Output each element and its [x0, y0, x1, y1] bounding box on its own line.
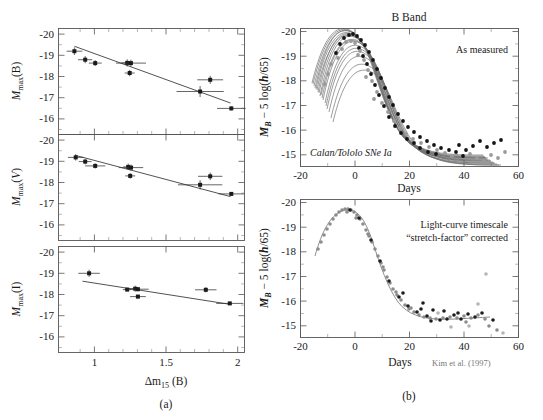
xtick-label: 20 — [404, 340, 416, 352]
ytick-label: -20 — [281, 25, 296, 37]
panel-a-caption: (a) — [160, 398, 173, 411]
ytick-label: -15 — [281, 319, 296, 331]
panel-b-caption: (b) — [402, 390, 416, 403]
ytick-label: -17 — [281, 270, 296, 282]
panel-b-bottom-annotation-line1: Light-curve timescale — [421, 219, 509, 230]
figure-background — [0, 0, 543, 420]
xtick-label: 0 — [352, 169, 358, 181]
ytick-label: -20 — [39, 134, 54, 146]
ytick-label: -19 — [39, 267, 54, 279]
figure-container: -20 -19 -18 -17 -16 Mmax(B) — [0, 0, 543, 420]
panel-b-dataset-label: Calan/Tololo SNe Ia — [310, 147, 392, 158]
ytick-label: -17 — [39, 91, 54, 103]
ytick-label: -20 — [39, 28, 54, 40]
ytick-label: -16 — [39, 330, 54, 342]
xtick-label: 20 — [404, 169, 416, 181]
ytick-label: -19 — [281, 50, 296, 62]
ytick-label: -19 — [39, 49, 54, 61]
ytick-label: -18 — [39, 70, 54, 82]
ytick-label: -18 — [281, 245, 296, 257]
xtick-label: 60 — [513, 169, 525, 181]
figure-credit: Kim et al. (1997) — [432, 358, 491, 368]
xtick-label: 40 — [459, 340, 471, 352]
panel-b-top-xaxis-label: Days — [397, 182, 421, 195]
ytick-label: -19 — [39, 155, 54, 167]
xtick-label: 2 — [235, 356, 241, 368]
xtick-label: -20 — [293, 340, 308, 352]
ytick-label: -17 — [281, 99, 296, 111]
ytick-label: -16 — [281, 295, 296, 307]
xtick-label: 60 — [513, 340, 525, 352]
panel-b-bottom-xaxis-label: Days — [388, 356, 412, 369]
ytick-label: -15 — [281, 148, 296, 160]
ytick-label: -18 — [39, 288, 54, 300]
ytick-label: -19 — [281, 221, 296, 233]
ytick-label: -16 — [39, 112, 54, 124]
panel-b-bottom-annotation-line2: “stretch-factor” corrected — [406, 232, 508, 243]
xtick-label: 1.5 — [159, 356, 173, 368]
ytick-label: -16 — [281, 124, 296, 136]
xtick-label: 40 — [459, 169, 471, 181]
xtick-label: -20 — [293, 169, 308, 181]
ytick-label: -20 — [281, 196, 296, 208]
xtick-label: 0 — [352, 340, 358, 352]
panel-b-top-annotation: As measured — [456, 44, 508, 55]
xtick-label: 1 — [92, 356, 98, 368]
ytick-label: -16 — [39, 218, 54, 230]
ytick-label: -20 — [39, 246, 54, 258]
ytick-label: -18 — [281, 74, 296, 86]
ytick-label: -17 — [39, 197, 54, 209]
ytick-label: -17 — [39, 309, 54, 321]
supernova-figure-svg: -20 -19 -18 -17 -16 Mmax(B) — [0, 0, 543, 420]
panel-b-top-title: B Band — [392, 11, 427, 23]
ytick-label: -18 — [39, 176, 54, 188]
